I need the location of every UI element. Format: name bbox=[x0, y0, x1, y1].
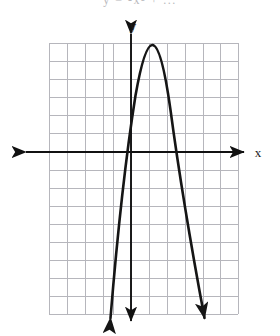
coordinate-plane-figure: x y bbox=[0, 0, 280, 336]
graph-screenshot: y = -x² + ... bbox=[0, 0, 280, 336]
grid-lines bbox=[49, 43, 238, 314]
parabola-curve bbox=[111, 45, 205, 318]
graph-canvas: x y bbox=[0, 0, 280, 336]
x-axis-label: x bbox=[255, 145, 262, 160]
y-axis-label: y bbox=[130, 18, 137, 33]
